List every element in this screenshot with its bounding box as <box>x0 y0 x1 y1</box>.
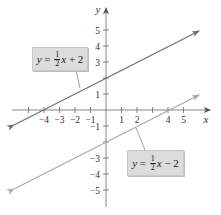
eq1-rest: + 2 <box>69 53 83 65</box>
eq1-equals: = <box>44 53 50 65</box>
eq2-lhs: y <box>132 157 137 169</box>
x-tick-label: 5 <box>181 115 186 125</box>
y-tick-label: 3 <box>95 58 100 68</box>
x-tick-label: 2 <box>135 115 140 125</box>
leader-line-eq2 <box>136 128 145 150</box>
equation-label-2: y = 12x − 2 <box>127 150 184 176</box>
y-tick-label: 1 <box>95 90 100 100</box>
eq1-lhs: y <box>37 53 42 65</box>
eq1-var: x <box>61 53 66 65</box>
eq2-equals: = <box>140 157 146 169</box>
eq1-fraction: 12 <box>54 51 60 68</box>
x-tick-label: −2 <box>70 115 80 125</box>
y-tick-label: 5 <box>95 26 100 36</box>
eq2-rest: − 2 <box>164 157 178 169</box>
eq2-fraction: 12 <box>150 155 156 172</box>
eq2-var: x <box>157 157 162 169</box>
line-y-half-x-plus-2 <box>14 31 199 125</box>
y-tick-label: −3 <box>90 154 100 164</box>
equation-label-1: y = 12x + 2 <box>32 47 88 71</box>
y-axis-label: y <box>95 3 101 15</box>
y-tick-label: 4 <box>95 42 100 52</box>
coordinate-plane: −4 −3 −2 −1 1 2 4 5 5 4 3 1 −1 −3 −4 −5 … <box>0 0 221 215</box>
x-tick-label: 1 <box>119 115 124 125</box>
x-tick-label: −4 <box>39 115 49 125</box>
x-axis-label: x <box>203 113 209 125</box>
leader-line-eq1 <box>76 70 80 88</box>
y-tick-label: −4 <box>90 170 100 180</box>
x-tick-label: 4 <box>166 115 171 125</box>
y-tick-label: −1 <box>90 122 100 132</box>
y-tick-label: −5 <box>90 186 100 196</box>
x-tick-label: −3 <box>54 115 64 125</box>
